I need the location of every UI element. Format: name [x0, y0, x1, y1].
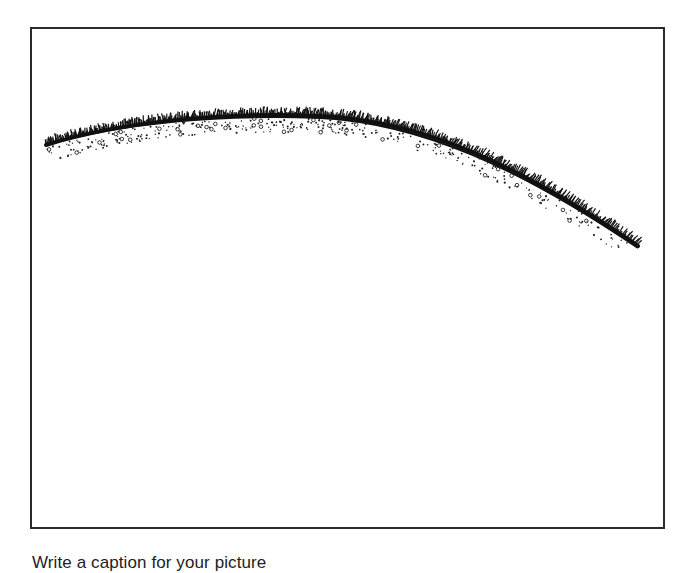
caption-prompt: Write a caption for your picture [32, 553, 266, 573]
